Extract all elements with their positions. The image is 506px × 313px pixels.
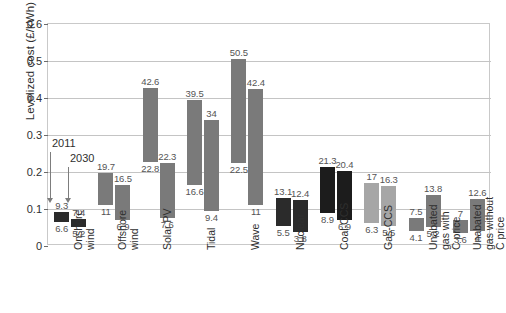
y-axis-tick-mark bbox=[44, 135, 48, 136]
gridline bbox=[48, 61, 491, 62]
y-axis-tick-label: 0 bbox=[8, 240, 42, 252]
bar bbox=[54, 212, 69, 222]
y-axis-ticks: 00.10.20.30.40.50.6 bbox=[48, 24, 491, 246]
annotation-2011-label: 2011 bbox=[52, 137, 76, 149]
bar-value-low: 9.4 bbox=[205, 212, 218, 223]
x-axis-category-label: Offshore wind bbox=[117, 210, 140, 250]
y-axis-tick-mark bbox=[44, 172, 48, 173]
x-axis-category-label: Nuclear bbox=[295, 214, 307, 250]
bar bbox=[187, 100, 202, 185]
bar-value-high: 50.5 bbox=[230, 47, 248, 58]
gridline bbox=[48, 98, 491, 99]
bar bbox=[364, 183, 379, 223]
y-axis-tick-mark bbox=[44, 246, 48, 247]
bar-value-low: 16.6 bbox=[186, 186, 204, 197]
bar-value-low: 6.3 bbox=[365, 224, 378, 235]
x-axis-category-label: Wave bbox=[250, 224, 262, 250]
bar-value-high: 42.4 bbox=[247, 77, 265, 88]
x-axis-category-label: Coal-CCS bbox=[339, 203, 351, 250]
bar-value-low: 5.5 bbox=[277, 227, 290, 238]
y-axis-tick-label: 0.2 bbox=[8, 166, 42, 178]
bar-value-high: 16.5 bbox=[114, 173, 132, 184]
bar-value-low: 6.6 bbox=[55, 223, 68, 234]
annotation-2030-leader bbox=[68, 167, 69, 199]
bar bbox=[409, 218, 424, 231]
bar-value-low: 8.9 bbox=[321, 214, 334, 225]
x-axis-category-label: Tidal bbox=[206, 228, 218, 250]
y-axis-tick-label: 0.3 bbox=[8, 129, 42, 141]
bar-value-high: 12.4 bbox=[291, 188, 309, 199]
bar-value-low: 11 bbox=[251, 206, 261, 217]
annotation-2011-leader bbox=[50, 152, 51, 199]
bar-value-high: 39.5 bbox=[186, 88, 204, 99]
x-axis-category-label: Unabated gas with C price bbox=[428, 204, 463, 250]
bar bbox=[320, 167, 335, 213]
bar-value-high: 7.5 bbox=[410, 206, 423, 217]
bar-value-high: 17 bbox=[367, 171, 377, 182]
bar-value-low: 11 bbox=[101, 206, 111, 217]
y-axis-tick-label: 0.6 bbox=[8, 18, 42, 30]
plot-area: 00.10.20.30.40.50.6 9.36.67.45.219.71116… bbox=[47, 23, 490, 245]
bar bbox=[248, 89, 263, 205]
y-axis-tick-mark bbox=[44, 209, 48, 210]
y-axis-tick-label: 0.5 bbox=[8, 55, 42, 67]
annotation-2030-arrowhead bbox=[65, 198, 71, 203]
bar bbox=[231, 59, 246, 163]
bar bbox=[276, 198, 291, 226]
x-axis-category-label: Onshore wind bbox=[73, 210, 96, 250]
annotation-2011-arrowhead bbox=[47, 198, 53, 203]
bar-value-high: 16.3 bbox=[380, 174, 398, 185]
bar-value-high: 42.6 bbox=[141, 76, 159, 87]
y-axis-tick-mark bbox=[44, 24, 48, 25]
bar-value-low: 22.8 bbox=[141, 163, 159, 174]
bar-value-high: 22.3 bbox=[158, 151, 176, 162]
gridline bbox=[48, 135, 491, 136]
bar bbox=[143, 88, 158, 161]
bar bbox=[204, 120, 219, 211]
bar-value-high: 21.3 bbox=[318, 155, 336, 166]
bar-value-high: 34 bbox=[206, 108, 216, 119]
bar bbox=[98, 173, 113, 205]
annotation-2030-label: 2030 bbox=[70, 152, 94, 164]
y-axis-tick-mark bbox=[44, 61, 48, 62]
y-axis-tick-label: 0.4 bbox=[8, 92, 42, 104]
bar-value-high: 19.7 bbox=[97, 161, 115, 172]
x-axis-category-label: Unabated gas without C price bbox=[472, 197, 506, 250]
x-axis-category-label: Solar PV bbox=[162, 209, 174, 250]
y-axis-tick-label: 0.1 bbox=[8, 203, 42, 215]
gridline bbox=[48, 209, 491, 210]
bar-value-low: 22.5 bbox=[230, 164, 248, 175]
bar-value-high: 13.8 bbox=[424, 183, 442, 194]
y-axis-tick-mark bbox=[44, 98, 48, 99]
bar-value-high: 13.1 bbox=[274, 186, 292, 197]
bar-value-high: 20.4 bbox=[335, 159, 353, 170]
bar-value-low: 4.1 bbox=[410, 232, 423, 243]
x-axis-category-label: Gas-CCS bbox=[383, 205, 395, 250]
